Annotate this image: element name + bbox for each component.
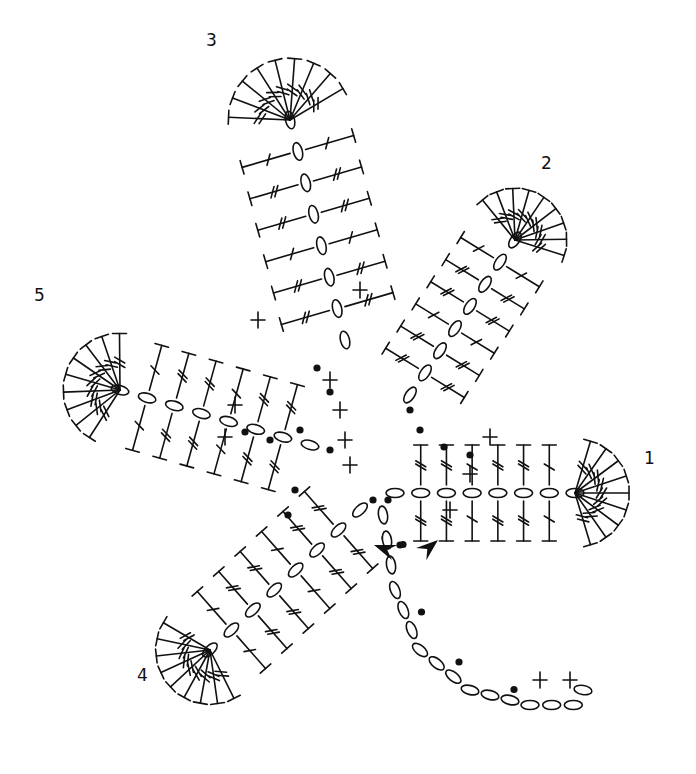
treble-stitch-icon — [256, 216, 306, 237]
slip-stitch-icon — [266, 436, 273, 443]
slip-stitch-icon — [510, 686, 517, 693]
chain-stitch-icon — [396, 600, 411, 620]
double-stitch-icon — [412, 298, 448, 324]
slip-stitch-icon — [416, 426, 423, 433]
double-stitch-icon — [301, 576, 335, 613]
slip-stitch-icon — [369, 496, 376, 503]
slip-stitch-icon — [406, 406, 413, 413]
chain-stitch-icon — [489, 489, 507, 498]
chain-stitch-icon — [540, 489, 558, 498]
chain-stitch-icon — [291, 142, 304, 162]
double-stitch-icon — [231, 367, 250, 414]
chain-stitch-icon — [476, 274, 494, 294]
leaf-label-3: 3 — [206, 30, 217, 50]
treble-stitch-icon — [153, 413, 172, 460]
single-crochet-icon — [218, 429, 232, 445]
single-crochet-icon — [333, 402, 347, 418]
chain-stitch-icon — [515, 489, 533, 498]
double-stitch-icon — [542, 445, 556, 485]
single-crochet-icon — [443, 502, 457, 518]
treble-stitch-icon — [337, 254, 387, 275]
single-crochet-icon — [228, 397, 242, 413]
chain-stitch-icon — [164, 399, 184, 413]
treble-stitch-icon — [278, 507, 312, 544]
chain-stitch-icon — [404, 620, 419, 640]
chain-stitch-icon — [307, 204, 320, 224]
treble-stitch-icon — [72, 390, 120, 431]
chain-stitch-icon — [543, 701, 561, 710]
leaf-5 — [63, 333, 320, 491]
chain-stitch-icon — [412, 489, 430, 498]
leaf-label-2: 2 — [541, 153, 552, 173]
treble-stitch-icon — [285, 383, 304, 430]
treble-stitch-icon — [235, 547, 269, 584]
slip-stitch-icon — [291, 486, 298, 493]
treble-stitch-icon — [397, 320, 433, 346]
slip-stitch-icon — [313, 364, 320, 371]
single-crochet-icon — [563, 672, 577, 688]
chain-stitch-icon — [461, 296, 479, 316]
treble-stitch-icon — [491, 501, 505, 541]
slip-stitch-icon — [326, 446, 333, 453]
treble-stitch-icon — [238, 76, 290, 120]
leaf-3 — [228, 58, 395, 350]
slip-stitch-icon — [418, 608, 425, 615]
treble-stitch-icon — [272, 279, 322, 300]
chain-stitch-icon — [338, 330, 351, 350]
chain-stitch-icon — [219, 415, 239, 429]
crochet-chart-svg — [0, 0, 696, 774]
treble-stitch-icon — [344, 536, 378, 573]
treble-stitch-icon — [517, 445, 531, 485]
slip-stitch-icon — [384, 496, 391, 503]
chain-stitch-icon — [387, 580, 402, 600]
chain-stitch-icon — [500, 693, 520, 706]
chain-stitch-icon — [410, 641, 430, 659]
chain-stitch-icon — [300, 438, 320, 452]
chain-stitch-icon — [480, 688, 500, 701]
slip-stitch-icon — [399, 541, 406, 548]
chain-stitch-icon — [416, 363, 434, 383]
double-stitch-icon — [329, 223, 379, 244]
treble-stitch-icon — [442, 254, 478, 280]
chain-stitch-icon — [443, 668, 463, 686]
treble-stitch-icon — [321, 192, 371, 213]
treble-stitch-icon — [323, 556, 357, 593]
double-stitch-icon — [465, 445, 479, 485]
chain-stitch-icon — [386, 489, 404, 498]
double-stitch-icon — [192, 587, 226, 624]
treble-stitch-icon — [112, 333, 126, 390]
double-stitch-icon — [264, 248, 314, 269]
single-crochet-icon — [353, 282, 367, 298]
chain-stitch-icon — [299, 173, 312, 193]
chain-stitch-icon — [246, 422, 266, 436]
double-stitch-icon — [542, 501, 556, 541]
chain-stitch-icon — [564, 701, 582, 710]
center-slip-stitches — [241, 364, 473, 548]
slip-stitch-icon — [466, 451, 473, 458]
chain-stitch-icon — [192, 407, 212, 421]
chain-stitch-icon — [521, 701, 539, 710]
chain-stitch-icon — [315, 236, 328, 256]
treble-stitch-icon — [210, 650, 240, 701]
treble-stitch-icon — [477, 196, 515, 240]
treble-stitch-icon — [204, 359, 223, 406]
treble-stitch-icon — [177, 351, 196, 398]
treble-stitch-icon — [447, 355, 483, 381]
chain-stitch-icon — [460, 683, 480, 696]
treble-stitch-icon — [382, 342, 418, 368]
treble-stitch-icon — [515, 240, 566, 262]
leaf-label-4: 4 — [137, 665, 148, 685]
double-stitch-icon — [462, 333, 498, 359]
treble-stitch-icon — [258, 616, 292, 653]
chain-stitch-icon — [350, 501, 369, 520]
crochet-diagram: 3 2 5 1 4 — [0, 0, 696, 774]
single-crochet-icon — [533, 672, 547, 688]
double-stitch-icon — [256, 527, 290, 564]
leaf-label-5: 5 — [34, 285, 45, 305]
treble-stitch-icon — [248, 185, 298, 206]
treble-stitch-icon — [262, 445, 281, 492]
double-stitch-icon — [207, 429, 226, 476]
double-stitch-icon — [457, 232, 493, 258]
treble-stitch-icon — [492, 289, 528, 315]
slip-stitch-icon — [440, 443, 447, 450]
